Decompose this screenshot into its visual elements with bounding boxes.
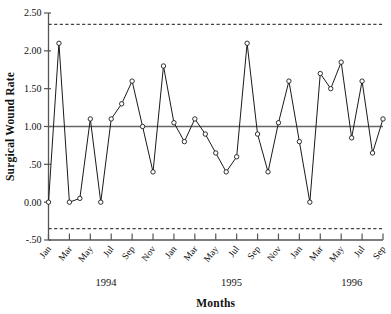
x-tick-label-month: Jul <box>101 244 116 259</box>
data-point-marker <box>109 117 113 121</box>
x-axis-title: Months <box>196 297 235 309</box>
x-tick-label-month: Mar <box>56 243 74 262</box>
data-point-marker <box>381 117 385 121</box>
y-axis-title: Surgical Wound Rate <box>4 72 17 181</box>
data-point-marker <box>203 132 207 136</box>
x-tick-label-month: Sep <box>245 244 262 262</box>
x-tick-label-month: Sep <box>371 244 388 262</box>
data-point-marker <box>78 196 82 200</box>
data-point-marker <box>308 200 312 204</box>
data-point-marker <box>88 117 92 121</box>
data-point-marker <box>119 102 123 106</box>
x-tick-label-month: Nov <box>265 244 283 263</box>
data-point-marker <box>193 117 197 121</box>
data-point-marker <box>182 139 186 143</box>
data-point-marker <box>297 139 301 143</box>
series-line-surgical-wound-rate <box>49 43 384 202</box>
data-point-marker <box>349 136 353 140</box>
chart-canvas: 2.502.001.501.00.500.00-.50Surgical Woun… <box>0 0 391 314</box>
y-tick-label: 2.50 <box>24 7 42 18</box>
x-tick-label-month: Nov <box>140 244 158 263</box>
data-point-marker <box>130 79 134 83</box>
x-tick-label-month: May <box>76 244 95 264</box>
data-point-marker <box>172 121 176 125</box>
x-axis-year-label: 1994 <box>95 277 117 288</box>
data-point-marker <box>276 121 280 125</box>
data-point-marker <box>370 151 374 155</box>
data-point-marker <box>140 124 144 128</box>
data-point-marker <box>234 155 238 159</box>
y-tick-label: -.50 <box>26 234 42 245</box>
x-tick-label-month: Mar <box>182 243 200 262</box>
y-tick-label: 0.00 <box>24 197 42 208</box>
data-point-marker <box>245 41 249 45</box>
data-point-marker <box>287 79 291 83</box>
data-point-marker <box>360 79 364 83</box>
x-tick-label-month: Sep <box>120 244 137 262</box>
y-tick-label: 1.00 <box>24 121 42 132</box>
data-point-marker <box>224 170 228 174</box>
data-point-marker <box>67 200 71 204</box>
x-tick-label-month: Jan <box>288 244 304 260</box>
data-point-marker <box>99 200 103 204</box>
surgical-wound-rate-control-chart: 2.502.001.501.00.500.00-.50Surgical Woun… <box>0 0 391 314</box>
data-point-marker <box>329 86 333 90</box>
data-point-marker <box>57 41 61 45</box>
data-point-marker <box>151 170 155 174</box>
x-tick-label-month: May <box>202 244 221 264</box>
x-tick-label-month: Jul <box>352 244 367 259</box>
data-point-marker <box>255 132 259 136</box>
data-point-marker <box>161 64 165 68</box>
data-point-marker <box>46 200 50 204</box>
data-point-marker <box>266 170 270 174</box>
x-axis-year-label: 1996 <box>341 277 362 288</box>
y-tick-label: 1.50 <box>24 83 42 94</box>
x-tick-label-month: Jan <box>37 244 53 260</box>
data-point-marker <box>339 60 343 64</box>
x-tick-label-month: Jul <box>227 244 242 259</box>
x-tick-label-month: Jan <box>163 244 179 260</box>
y-tick-label: 2.00 <box>24 45 42 56</box>
x-tick-label-month: Mar <box>307 243 325 262</box>
x-tick-label-month: May <box>327 244 346 264</box>
x-axis-year-label: 1995 <box>221 277 242 288</box>
data-point-marker <box>214 151 218 155</box>
y-tick-label: .50 <box>29 159 42 170</box>
data-point-marker <box>318 71 322 75</box>
